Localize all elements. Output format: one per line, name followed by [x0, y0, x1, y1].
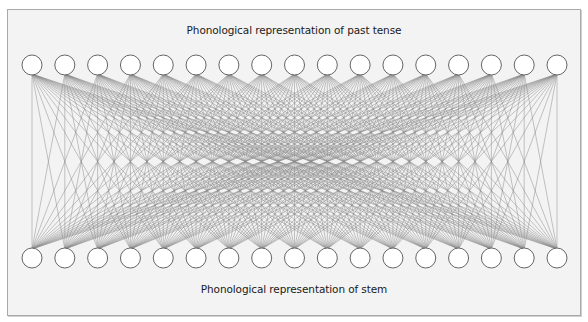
- stem-unit-node: [120, 248, 140, 268]
- stem-unit-node: [547, 248, 567, 268]
- past-tense-unit-node: [55, 55, 75, 75]
- past-tense-unit-node: [120, 55, 140, 75]
- stem-unit-node: [383, 248, 403, 268]
- top-layer-label: Phonological representation of past tens…: [0, 24, 588, 36]
- past-tense-unit-node: [383, 55, 403, 75]
- past-tense-unit-node: [317, 55, 337, 75]
- stem-unit-node: [317, 248, 337, 268]
- past-tense-unit-node: [219, 55, 239, 75]
- stem-unit-node: [22, 248, 42, 268]
- past-tense-unit-node: [481, 55, 501, 75]
- connections: [32, 74, 557, 249]
- stem-unit-node: [186, 248, 206, 268]
- bottom-layer-label: Phonological representation of stem: [0, 283, 588, 295]
- past-tense-unit-node: [416, 55, 436, 75]
- stem-unit-node: [350, 248, 370, 268]
- top-layer-nodes: [22, 55, 567, 75]
- past-tense-unit-node: [285, 55, 305, 75]
- stem-unit-node: [153, 248, 173, 268]
- stem-unit-node: [219, 248, 239, 268]
- bottom-layer-nodes: [22, 248, 567, 268]
- past-tense-unit-node: [153, 55, 173, 75]
- past-tense-unit-node: [449, 55, 469, 75]
- stem-unit-node: [252, 248, 272, 268]
- past-tense-unit-node: [22, 55, 42, 75]
- network-diagram: [0, 0, 588, 322]
- stem-unit-node: [285, 248, 305, 268]
- past-tense-unit-node: [350, 55, 370, 75]
- stem-unit-node: [88, 248, 108, 268]
- stem-unit-node: [55, 248, 75, 268]
- past-tense-unit-node: [252, 55, 272, 75]
- stem-unit-node: [514, 248, 534, 268]
- past-tense-unit-node: [186, 55, 206, 75]
- stem-unit-node: [481, 248, 501, 268]
- stem-unit-node: [449, 248, 469, 268]
- stem-unit-node: [416, 248, 436, 268]
- past-tense-unit-node: [88, 55, 108, 75]
- past-tense-unit-node: [514, 55, 534, 75]
- past-tense-unit-node: [547, 55, 567, 75]
